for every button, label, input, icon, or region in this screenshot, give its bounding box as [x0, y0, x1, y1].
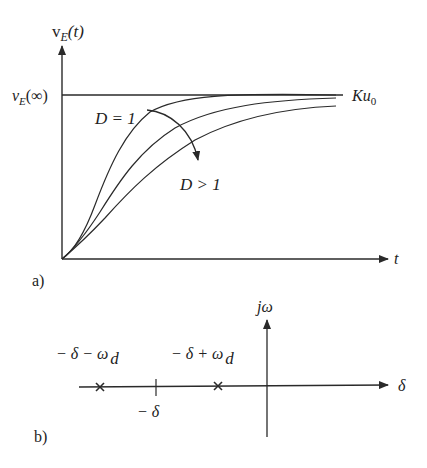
pole-1-label: − δ − ωd: [56, 345, 119, 368]
panel-a-label: a): [32, 272, 44, 290]
steady-state-label: vE(∞): [12, 87, 48, 107]
panel-b: jω δ − δ − ωd − δ + ωd − δ b): [34, 298, 406, 446]
y-axis-label: vE(t): [52, 22, 84, 44]
overdamped-label: D > 1: [179, 175, 221, 194]
panel-a: vE(t) vE(∞) Ku0 D = 1 D > 1 t a): [12, 22, 399, 290]
critical-damping-label: D = 1: [94, 109, 136, 128]
imaginary-axis-label: jω: [255, 298, 273, 316]
step-response-and-pole-diagram: vE(t) vE(∞) Ku0 D = 1 D > 1 t a) jω δ − …: [0, 0, 427, 468]
real-axis: [79, 385, 388, 387]
pole-2-label: − δ + ωd: [171, 345, 234, 368]
center-tick-label: − δ: [137, 403, 160, 420]
panel-b-label: b): [34, 428, 47, 446]
increasing-damping-arrow: [147, 110, 198, 160]
asymptote-label: Ku0: [351, 87, 377, 107]
real-axis-label: δ: [398, 377, 406, 394]
time-axis-label: t: [394, 250, 399, 267]
